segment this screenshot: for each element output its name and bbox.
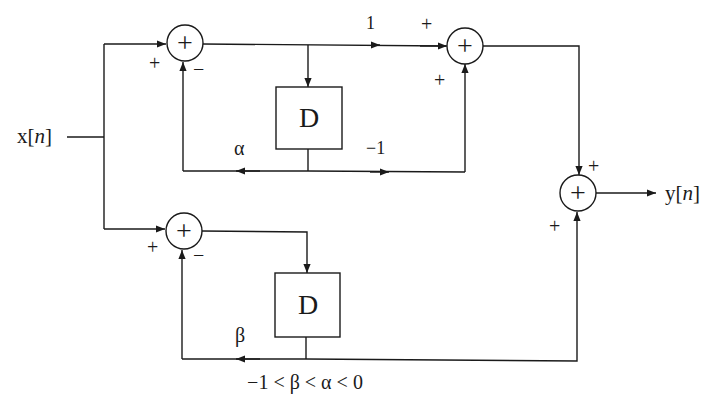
sign-minus: − bbox=[193, 244, 204, 266]
minus-one-label: −1 bbox=[366, 138, 385, 158]
output-stage: + + + y[n] bbox=[549, 155, 700, 237]
gain-one-label: 1 bbox=[366, 13, 375, 33]
top-forward-wire bbox=[203, 44, 446, 46]
wire-to-output-sum bbox=[483, 46, 579, 175]
input-label: x[n] bbox=[17, 124, 52, 148]
sign-plus: + bbox=[434, 69, 445, 91]
sum-icon: + bbox=[176, 215, 192, 246]
sign-plus: + bbox=[149, 52, 160, 74]
delay-label: D bbox=[298, 289, 318, 320]
sign-plus: + bbox=[147, 236, 158, 258]
lower-branch: + + − D β bbox=[104, 212, 577, 361]
alpha-label: α bbox=[234, 137, 245, 159]
block-diagram: x[n] + + − 1 D α −1 + + + + bbox=[0, 0, 725, 417]
beta-label: β bbox=[235, 324, 245, 347]
sign-plus: + bbox=[549, 215, 560, 237]
wire-to-bottom-delay bbox=[202, 231, 307, 273]
sum-icon: + bbox=[457, 30, 473, 61]
sign-minus: − bbox=[193, 58, 204, 80]
upper-branch: + + − 1 D α −1 + + + bbox=[104, 13, 579, 175]
wire-up-to-output-sum bbox=[306, 212, 577, 361]
delay-label: D bbox=[299, 102, 319, 133]
input-signal: x[n] bbox=[17, 44, 104, 229]
sum-icon: + bbox=[177, 27, 193, 58]
output-label: y[n] bbox=[665, 181, 700, 205]
parameter-constraint: −1 < β < α < 0 bbox=[247, 371, 363, 394]
sign-plus: + bbox=[588, 155, 599, 177]
sign-plus: + bbox=[421, 13, 432, 35]
sum-icon: + bbox=[570, 177, 586, 208]
